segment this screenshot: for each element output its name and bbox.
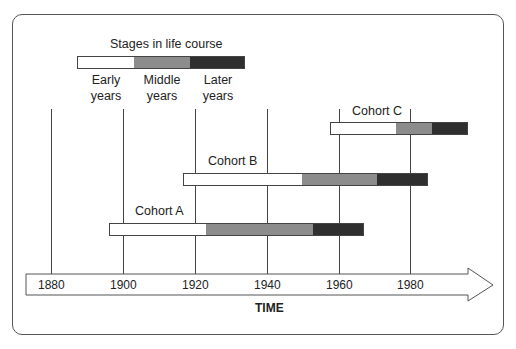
- tick-1900: 1900: [110, 278, 137, 292]
- tick-1980: 1980: [397, 278, 424, 292]
- time-arrow-icon: [0, 0, 516, 349]
- tick-1880: 1880: [38, 278, 65, 292]
- axis-label: TIME: [255, 301, 284, 315]
- tick-1940: 1940: [254, 278, 281, 292]
- tick-1920: 1920: [182, 278, 209, 292]
- tick-1960: 1960: [326, 278, 353, 292]
